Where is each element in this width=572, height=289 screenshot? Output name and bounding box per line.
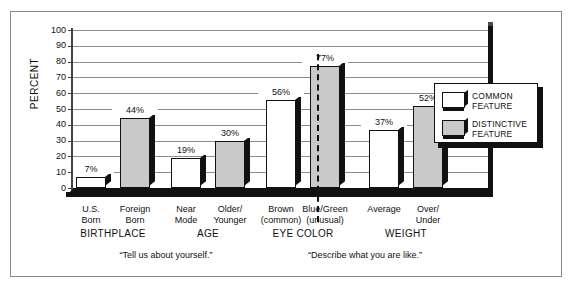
x-axis-category-label: Older/Younger <box>201 204 259 225</box>
legend-item-1[interactable]: COMMONFEATURE <box>442 91 513 111</box>
bar-4[interactable] <box>215 141 245 188</box>
y-axis-tick-mark <box>68 172 72 173</box>
y-axis-tick-mark <box>68 109 72 110</box>
x-axis-group-label: WEIGHT <box>341 228 471 239</box>
bar-value-label: 30% <box>207 129 253 138</box>
y-axis-tick-mark <box>68 188 72 189</box>
y-axis-tick-label: 100 <box>40 26 66 35</box>
chart-caption: “Describe what you are like.” <box>255 250 475 261</box>
gridline <box>72 62 488 63</box>
x-axis-category-label: Blue/Green(unusual) <box>296 204 354 225</box>
bar-3d-side <box>200 153 206 186</box>
category-label-line1: Foreign <box>106 204 164 215</box>
legend-swatch-distinctive <box>442 120 465 136</box>
y-axis-tick-label: 30 <box>40 136 66 145</box>
plot-floor-front <box>66 192 493 197</box>
plot-area: 7%44%19%30%56%77%37%52% <box>72 30 488 188</box>
bar-2[interactable] <box>120 118 150 188</box>
y-axis-tick-label: 90 <box>40 41 66 50</box>
y-axis-tick-label: 10 <box>40 168 66 177</box>
gridline <box>72 30 488 31</box>
x-axis-category-label: ForeignBorn <box>106 204 164 225</box>
y-axis-title: PERCENT <box>29 49 40 119</box>
y-axis-tick-label: 60 <box>40 89 66 98</box>
legend-label: DISTINCTIVEFEATURE <box>472 119 527 139</box>
bar-3d-side <box>149 114 155 186</box>
bar-value-label: 77% <box>302 54 348 63</box>
bar-3[interactable] <box>171 158 201 188</box>
bar-value-label: 7% <box>68 165 114 174</box>
bar-5[interactable] <box>266 100 296 188</box>
legend-swatch-3d-side <box>464 90 468 107</box>
y-axis-tick-label: 50 <box>40 105 66 114</box>
legend-swatch-common <box>442 92 465 108</box>
y-axis-tick-label: 70 <box>40 73 66 82</box>
y-axis-tick-label: 40 <box>40 120 66 129</box>
y-axis-tick-label: 0 <box>40 184 66 193</box>
bar-3d-side <box>398 125 404 186</box>
gridline <box>72 77 488 78</box>
category-label-line1: Blue/Green <box>296 204 354 215</box>
y-axis-tick-mark <box>68 62 72 63</box>
legend-label-line2: FEATURE <box>472 101 513 111</box>
category-label-line2: Born <box>106 215 164 226</box>
y-axis-tick-label: 20 <box>40 152 66 161</box>
legend-item-2[interactable]: DISTINCTIVEFEATURE <box>442 119 527 139</box>
bar-3d-side <box>339 62 345 186</box>
bar-3d-side <box>295 95 301 186</box>
y-axis-tick-mark <box>68 125 72 126</box>
legend-label-line2: FEATURE <box>472 129 527 139</box>
bar-3d-side <box>244 136 250 186</box>
y-axis-tick-mark <box>68 93 72 94</box>
category-label-line2: Under <box>399 215 457 226</box>
bar-1[interactable] <box>76 177 106 188</box>
legend-shadow-right <box>538 87 543 147</box>
y-axis-tick-mark <box>68 77 72 78</box>
legend-label: COMMONFEATURE <box>472 91 513 111</box>
bar-6[interactable] <box>310 66 340 188</box>
legend-label-line1: DISTINCTIVE <box>472 119 527 129</box>
legend-shadow-bottom <box>438 143 543 148</box>
y-axis-tick-mark <box>68 46 72 47</box>
bar-value-label: 19% <box>163 146 209 155</box>
legend-swatch-3d-bottom <box>443 107 464 111</box>
y-axis-tick-label: 80 <box>40 57 66 66</box>
category-label-line1: Older/ <box>201 204 259 215</box>
x-axis-category-label: Over/Under <box>399 204 457 225</box>
chart-caption: “Tell us about yourself.” <box>56 250 276 261</box>
category-label-line2: (unusual) <box>296 215 354 226</box>
y-axis-tick-mark <box>68 156 72 157</box>
bar-value-label: 44% <box>112 106 158 115</box>
legend-label-line1: COMMON <box>472 91 513 101</box>
bar-value-label: 37% <box>361 118 407 127</box>
legend-swatch-3d-side <box>464 118 468 135</box>
bar-value-label: 56% <box>258 88 304 97</box>
chart-legend[interactable]: COMMONFEATUREDISTINCTIVEFEATURE <box>434 83 538 143</box>
category-label-line1: Over/ <box>399 204 457 215</box>
bar-7[interactable] <box>369 130 399 188</box>
category-label-line2: Younger <box>201 215 259 226</box>
legend-swatch-3d-bottom <box>443 135 464 139</box>
gridline <box>72 46 488 47</box>
bar-chart-figure: PERCENT 7%44%19%30%56%77%37%52% 10090807… <box>0 0 572 289</box>
y-axis-tick-mark <box>68 141 72 142</box>
y-axis-tick-mark <box>68 30 72 31</box>
